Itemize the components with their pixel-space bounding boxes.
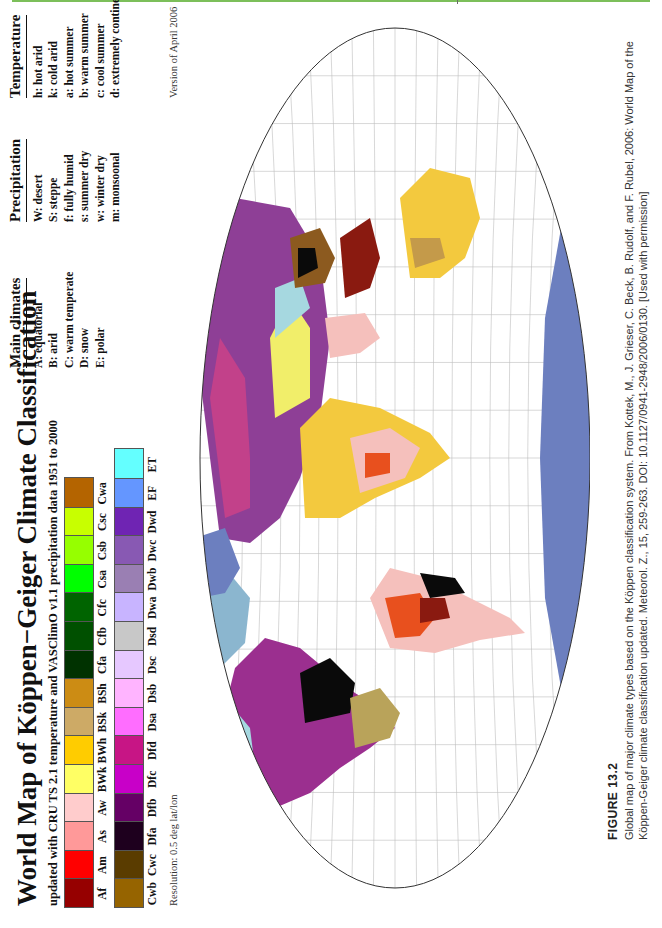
legend-swatch-dwd — [115, 507, 143, 536]
legend-swatch-ef — [115, 478, 143, 507]
legend-swatch-cfb — [65, 621, 93, 650]
legend-swatch-dfb — [115, 793, 143, 822]
legend-label-csc: Csc — [96, 508, 108, 537]
key-item: d: extremely continental — [108, 0, 124, 98]
legend-swatch-as — [65, 821, 93, 850]
legend-label-as: As — [96, 822, 108, 851]
legend-label-cfb: Cfb — [96, 622, 108, 651]
legend-swatch-dsd — [115, 621, 143, 650]
legend-swatch-bsk — [65, 707, 93, 736]
legend-swatch-dwc — [115, 535, 143, 564]
legend-swatch-csa — [65, 564, 93, 593]
legend-label-dfa: Dfa — [146, 822, 158, 851]
key-item: S: steppe — [46, 139, 62, 222]
legend-swatch-dfd — [115, 735, 143, 764]
legend-label-aw: Aw — [96, 794, 108, 823]
legend-label-dwd: Dwd — [146, 508, 158, 537]
legend-swatch-dfa — [115, 821, 143, 850]
legend-label-dsd: Dsd — [146, 622, 158, 651]
legend-label-ef: EF — [146, 479, 158, 508]
legend-label-dsc: Dsc — [146, 651, 158, 680]
legend-swatch-csc — [65, 507, 93, 536]
legend-labels-row-2: CwbCwcDfaDfbDfcDfdDsaDsbDscDsdDwaDwbDwcD… — [146, 451, 158, 909]
caption-text: Global map of major climate types based … — [622, 10, 650, 840]
key-item: b: warm summer — [77, 0, 93, 98]
key-heading: Precipitation — [8, 139, 27, 222]
key-item: h: hot arid — [31, 0, 47, 98]
legend-label-dfd: Dfd — [146, 736, 158, 765]
koppen-figure: World Map of Köppen−Geiger Climate Class… — [0, 0, 590, 928]
legend-label-bwk: BWk — [96, 765, 108, 794]
legend-swatch-bwh — [65, 735, 93, 764]
legend-swatch-af — [65, 878, 93, 907]
figure-caption: FIGURE 13.2 Global map of major climate … — [600, 0, 662, 928]
legend-swatch-cfa — [65, 650, 93, 679]
legend-swatch-cwa — [65, 478, 93, 507]
legend-swatch-bwk — [65, 764, 93, 793]
legend-swatch-dsb — [115, 678, 143, 707]
legend-swatch-cfc — [65, 592, 93, 621]
version-note: Version of April 2006 — [168, 7, 179, 98]
legend-swatches-row-1 — [64, 477, 94, 908]
resolution-note: Resolution: 0.5 deg lat/lon — [168, 795, 179, 906]
legend-label-af: Af — [96, 879, 108, 908]
legend-label-dfb: Dfb — [146, 794, 158, 823]
key-item: D: snow — [77, 272, 93, 368]
legend-swatch-aw — [65, 793, 93, 822]
key-precipitation: Precipitation W: desertS: steppef: fully… — [8, 139, 124, 222]
key-item: B: arid — [46, 272, 62, 368]
legend-swatch-cwb — [115, 878, 143, 907]
legend-label-dwa: Dwa — [146, 593, 158, 622]
key-heading: Temperature — [8, 15, 27, 98]
legend-label-cfc: Cfc — [96, 593, 108, 622]
legend-label-bsh: BSh — [96, 679, 108, 708]
legend-label-bsk: BSk — [96, 708, 108, 737]
legend-swatch-dwb — [115, 564, 143, 593]
key-item: f: fully humid — [62, 139, 78, 222]
key-item: C: warm temperate — [62, 272, 78, 368]
legend-swatch-cwc — [115, 850, 143, 879]
legend-label-dsb: Dsb — [146, 679, 158, 708]
legend-label-csb: Csb — [96, 536, 108, 565]
key-item: E: polar — [93, 272, 109, 368]
key-item: k: cold arid — [46, 0, 62, 98]
legend-label-et: ET — [146, 451, 158, 480]
map-subtitle: updated with CRU TS 2.1 temperature and … — [46, 420, 61, 906]
key-item: w: winter dry — [93, 139, 109, 222]
legend-swatch-dsa — [115, 707, 143, 736]
legend-swatch-et — [115, 450, 143, 479]
key-heading: Main climates — [8, 278, 27, 368]
legend-swatch-dsc — [115, 650, 143, 679]
legend-label-bwh: BWh — [96, 736, 108, 765]
key-main-climates: Main climates A: equatorialB: aridC: war… — [8, 272, 108, 368]
legend-label-dwc: Dwc — [146, 536, 158, 565]
legend-label-dsa: Dsa — [146, 708, 158, 737]
legend-swatch-dwa — [115, 592, 143, 621]
map-title: World Map of Köppen−Geiger Climate Class… — [12, 290, 43, 906]
legend-label-csa: Csa — [96, 565, 108, 594]
key-temperature: Temperature h: hot aridk: cold arida: ho… — [8, 0, 124, 98]
legend-swatch-csb — [65, 535, 93, 564]
legend-label-cwa: Cwa — [96, 479, 108, 508]
legend-swatch-am — [65, 850, 93, 879]
legend-swatch-dfc — [115, 764, 143, 793]
legend-label-cfa: Cfa — [96, 651, 108, 680]
legend-label-am: Am — [96, 851, 108, 880]
key-item: s: summer dry — [77, 139, 93, 222]
key-item: a: hot summer — [62, 0, 78, 98]
legend-swatch-bsh — [65, 678, 93, 707]
key-item: m: monsoonal — [108, 139, 124, 222]
legend-label-dfc: Dfc — [146, 765, 158, 794]
figure-label: FIGURE 13.2 — [606, 762, 620, 840]
legend-swatches-row-2 — [114, 449, 144, 909]
legend-label-cwb: Cwb — [146, 879, 158, 908]
key-item: A: equatorial — [31, 272, 47, 368]
legend-label-dwb: Dwb — [146, 565, 158, 594]
key-item: c: cool summer — [93, 0, 109, 98]
legend-label-cwc: Cwc — [146, 851, 158, 880]
legend-labels-row-1: AfAmAsAwBWkBWhBSkBShCfaCfbCfcCsaCsbCscCw… — [96, 479, 108, 908]
key-item: W: desert — [31, 139, 47, 222]
world-climate-map — [180, 18, 590, 898]
